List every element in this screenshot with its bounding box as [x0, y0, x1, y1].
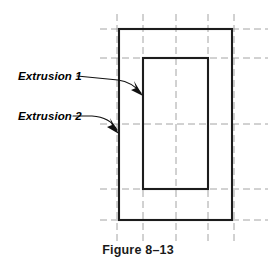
technical-drawing: Extrusion 1 Extrusion 2 Figure 8–13: [0, 0, 276, 267]
label-extrusion-2: Extrusion 2: [18, 110, 82, 122]
figure-caption: Figure 8–13: [102, 243, 174, 257]
canvas-background: [0, 0, 276, 267]
figure-container: Extrusion 1 Extrusion 2 Figure 8–13: [0, 0, 276, 267]
label-extrusion-1: Extrusion 1: [18, 70, 82, 82]
